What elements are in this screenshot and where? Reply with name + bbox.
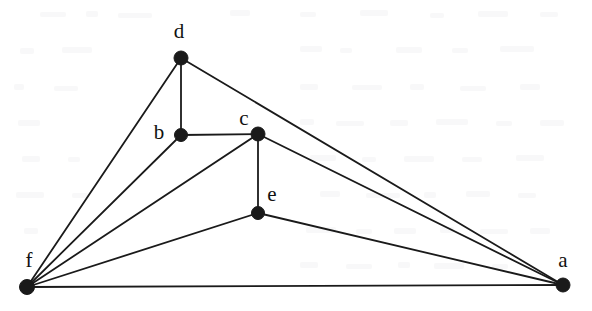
graph-node-c[interactable] xyxy=(251,127,265,141)
graph-node-b[interactable] xyxy=(175,129,188,142)
graph-node-label-d: d xyxy=(174,19,185,43)
graph-edge-d-a xyxy=(181,58,563,285)
graph-edge-c-f xyxy=(27,134,258,287)
graph-edge-f-a xyxy=(27,285,563,287)
graph-node-f[interactable] xyxy=(20,280,35,295)
graph-edge-e-a xyxy=(258,213,563,285)
graph-node-label-b: b xyxy=(154,120,165,144)
graph-node-d[interactable] xyxy=(174,51,188,65)
graph-edge-c-a xyxy=(258,134,563,285)
graph-edge-e-f xyxy=(27,213,258,287)
graph-node-label-e: e xyxy=(267,182,276,206)
graph-node-label-f: f xyxy=(26,248,33,272)
graph-edge-d-f xyxy=(27,58,181,287)
graph-node-e[interactable] xyxy=(252,207,265,220)
graph-edge-b-c xyxy=(181,134,258,135)
graph-node-a[interactable] xyxy=(556,278,570,292)
nodes-layer xyxy=(20,51,571,295)
edges-layer xyxy=(27,58,563,287)
graph-canvas: abcdef xyxy=(0,0,592,311)
graph-node-label-c: c xyxy=(239,106,248,130)
graph-node-label-a: a xyxy=(558,248,568,272)
graph-edge-b-f xyxy=(27,135,181,287)
graph-figure: abcdef xyxy=(0,0,592,311)
